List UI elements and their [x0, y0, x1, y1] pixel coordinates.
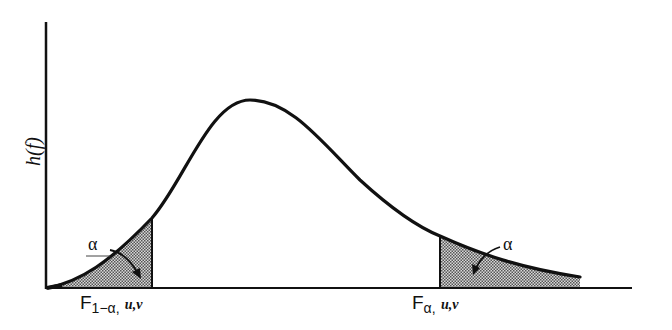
tick-params: u,v — [441, 297, 459, 312]
tick-main: F — [80, 292, 92, 313]
x-tick-upper-critical: Fα, u,v — [412, 292, 458, 316]
tick-params: u,v — [125, 297, 143, 312]
tick-main: F — [412, 292, 424, 313]
left-tail-shaded-region — [47, 218, 152, 288]
y-axis-label: h(f) — [22, 127, 45, 177]
left-alpha-annotation: α — [88, 234, 97, 255]
f-distribution-chart — [0, 0, 672, 330]
right-alpha-annotation: α — [503, 234, 512, 255]
tick-sub: 1−α, — [92, 300, 120, 316]
tick-sub: α, — [424, 300, 436, 316]
x-tick-lower-critical: F1−α, u,v — [80, 292, 142, 316]
